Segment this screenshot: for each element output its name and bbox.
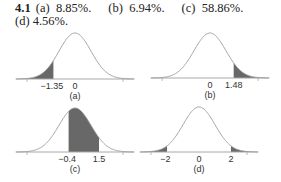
panel-caption-b: (b): [205, 90, 216, 100]
tick-label: 2: [228, 154, 233, 164]
density-curve: [140, 107, 258, 152]
panel-caption-a: (a): [70, 91, 81, 101]
density-curve: [151, 33, 269, 78]
tick-label: −2: [160, 154, 170, 164]
tick-label: −1.35: [41, 81, 64, 91]
normal-curve-b: 01.48(b): [151, 33, 269, 100]
tick-label: 0: [207, 80, 212, 90]
tick-label: 0: [72, 81, 77, 91]
normal-curve-d: −202(d): [140, 107, 258, 174]
normal-curve-panel-a: −1.350(a) 01.48(b) −0.41.5(c) −202(d): [0, 0, 281, 182]
tick-label: 1.5: [93, 154, 106, 164]
tick-label: −0.4: [58, 154, 76, 164]
normal-curve-a: −1.350(a): [16, 33, 134, 101]
tick-label: 1.48: [225, 80, 243, 90]
shaded-area: [17, 61, 53, 79]
density-curve: [16, 33, 134, 79]
tick-label: 0: [196, 154, 201, 164]
panel-caption-d: (d): [194, 164, 205, 174]
panel-caption-c: (c): [70, 164, 81, 174]
normal-curve-c: −0.41.5(c): [16, 108, 134, 174]
